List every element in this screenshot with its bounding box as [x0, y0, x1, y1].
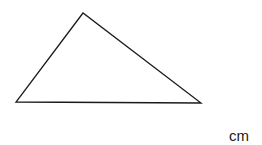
triangle-figure: [0, 0, 262, 145]
unit-label: cm: [229, 128, 249, 144]
diagram-canvas: cm: [0, 0, 262, 145]
triangle-shape: [16, 13, 201, 103]
